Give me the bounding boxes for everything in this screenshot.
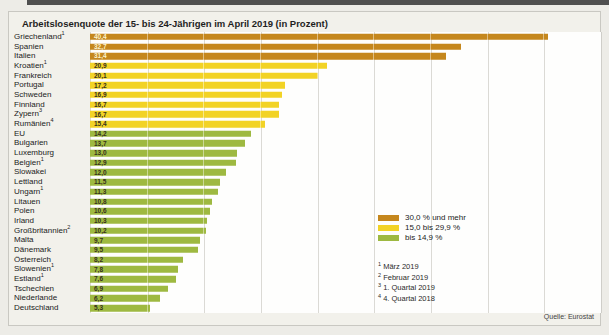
page-edge-strip xyxy=(27,0,609,5)
bar-value-label: 32,7 xyxy=(94,43,107,50)
value-bar: 11,5 xyxy=(90,179,220,186)
bar-value-label: 9,7 xyxy=(94,237,103,244)
bar-value-label: 10,2 xyxy=(94,227,107,234)
footnote-marker: 1 xyxy=(51,263,54,269)
country-label: Niederlande xyxy=(14,294,90,302)
source-credit: Quelle: Eurostat xyxy=(544,313,594,320)
country-label: Lettland xyxy=(14,178,90,186)
bar-value-label: 12,0 xyxy=(94,169,107,176)
bar-track: 20,9 xyxy=(90,61,600,71)
bar-track: 16,7 xyxy=(90,110,600,120)
value-bar: 32,7 xyxy=(90,43,461,50)
footnote-marker: 4 xyxy=(50,117,53,123)
value-bar: 20,1 xyxy=(90,72,318,79)
footnote-marker: 1 xyxy=(41,272,44,278)
value-bar: 10,8 xyxy=(90,198,212,205)
country-label: Deutschland xyxy=(14,304,90,312)
bar-value-label: 16,7 xyxy=(94,111,107,118)
bar-value-label: 11,5 xyxy=(94,179,106,186)
country-label: Großbritannien2 xyxy=(14,227,90,235)
bar-row: Kroatien120,9 xyxy=(14,61,600,71)
value-bar: 13,0 xyxy=(90,150,237,157)
footnote: 1 März 2019 xyxy=(378,262,435,273)
footnote: 3 1. Quartal 2019 xyxy=(378,283,435,294)
legend-label: bis 14,9 % xyxy=(405,234,442,242)
bar-track: 40,4 xyxy=(90,32,600,42)
country-label: Kroatien1 xyxy=(14,62,90,70)
chart-figure: Arbeitslosenquote der 15- bis 24-Jährige… xyxy=(8,11,601,326)
footnote-marker: 1 xyxy=(41,156,44,162)
bar-value-label: 13,0 xyxy=(94,150,107,157)
legend-item: 30,0 % und mehr xyxy=(378,213,466,223)
bar-row: Spanien32,7 xyxy=(14,42,600,52)
bar-track: 16,9 xyxy=(90,90,600,100)
bar-row: Estland17,6 xyxy=(14,274,600,284)
value-bar: 20,9 xyxy=(90,63,327,70)
bar-track: 32,7 xyxy=(90,42,600,52)
bar-track: 13,7 xyxy=(90,139,600,149)
country-label: EU xyxy=(14,130,90,138)
bar-track: 31,4 xyxy=(90,51,600,61)
bar-row: Ungarn111,3 xyxy=(14,187,600,197)
country-label: Portugal xyxy=(14,81,90,89)
country-label: Belgien1 xyxy=(14,159,90,167)
bar-value-label: 6,2 xyxy=(94,295,103,302)
bar-track: 5,3 xyxy=(90,303,600,313)
country-label: Rumänien4 xyxy=(14,120,90,128)
footnote-marker: 2 xyxy=(67,224,70,230)
value-bar: 13,7 xyxy=(90,140,245,147)
value-bar: 7,8 xyxy=(90,266,178,273)
bar-value-label: 16,9 xyxy=(94,92,107,99)
bar-row: Österreich8,2 xyxy=(14,255,600,265)
bar-value-label: 12,9 xyxy=(94,160,107,167)
bar-row: Portugal17,2 xyxy=(14,80,600,90)
bar-row: Zypern316,7 xyxy=(14,110,600,120)
bar-row: Litauen10,8 xyxy=(14,197,600,207)
footnote-marker: 4 xyxy=(378,292,381,298)
bar-row: Slowenien17,8 xyxy=(14,265,600,275)
bar-row: EU14,2 xyxy=(14,129,600,139)
legend-swatch xyxy=(378,225,399,232)
bar-track: 7,6 xyxy=(90,274,600,284)
value-bar: 12,0 xyxy=(90,169,226,176)
country-label: Slowenien1 xyxy=(14,265,90,273)
country-label: Tschechien xyxy=(14,285,90,293)
country-label: Italien xyxy=(14,52,90,60)
country-label: Griechenland1 xyxy=(14,33,90,41)
bar-row: Luxemburg13,0 xyxy=(14,148,600,158)
bar-value-label: 10,3 xyxy=(94,218,107,225)
footnote-marker: 1 xyxy=(44,59,47,65)
bar-track: 11,5 xyxy=(90,177,600,187)
country-label: Bulgarien xyxy=(14,139,90,147)
value-bar: 6,9 xyxy=(90,285,168,292)
legend-swatch xyxy=(378,215,399,222)
bar-row: Großbritannien210,2 xyxy=(14,226,600,236)
bar-value-label: 16,7 xyxy=(94,101,107,108)
bar-track: 9,7 xyxy=(90,235,600,245)
value-bar: 16,9 xyxy=(90,92,282,99)
bar-value-label: 31,4 xyxy=(94,53,107,60)
footnote-marker: 2 xyxy=(378,271,381,277)
bar-value-label: 10,6 xyxy=(94,208,107,215)
legend-item: bis 14,9 % xyxy=(378,233,466,243)
bar-track: 14,2 xyxy=(90,129,600,139)
country-label: Spanien xyxy=(14,43,90,51)
bar-row: Lettland11,5 xyxy=(14,177,600,187)
country-label: Finnland xyxy=(14,101,90,109)
bar-track: 10,2 xyxy=(90,226,600,236)
country-label: Schweden xyxy=(14,91,90,99)
bar-value-label: 9,5 xyxy=(94,247,103,254)
legend: 30,0 % und mehr15,0 bis 29,9 %bis 14,9 % xyxy=(378,213,466,243)
bar-rows: Griechenland140,4Spanien32,7Italien31,4K… xyxy=(14,32,600,313)
legend-swatch xyxy=(378,235,399,242)
value-bar: 9,5 xyxy=(90,247,198,254)
bar-value-label: 40,4 xyxy=(94,34,107,41)
bar-value-label: 10,8 xyxy=(94,198,107,205)
bar-track: 10,3 xyxy=(90,216,600,226)
bar-row: Rumänien415,4 xyxy=(14,119,600,129)
bar-track: 20,1 xyxy=(90,71,600,81)
bar-row: Tschechien6,9 xyxy=(14,284,600,294)
value-bar: 7,6 xyxy=(90,276,176,283)
bar-value-label: 13,7 xyxy=(94,140,107,147)
country-label: Estland1 xyxy=(14,275,90,283)
